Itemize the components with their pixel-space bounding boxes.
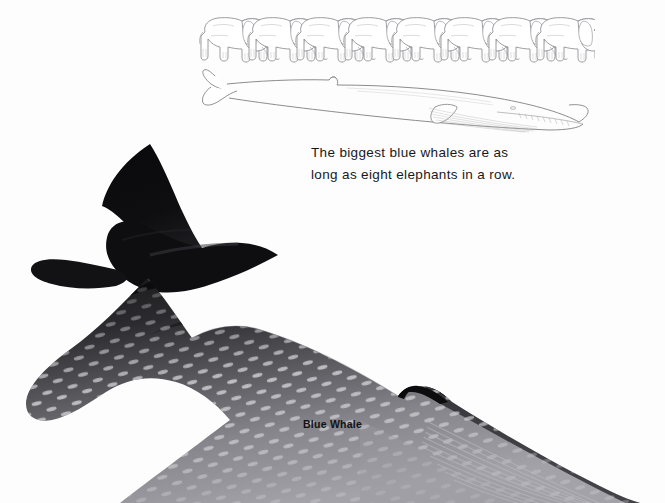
blue-whale-illustration [0,120,665,503]
tail-fluke [31,144,278,293]
size-comparison-figure [195,8,595,133]
species-label: Blue Whale [303,418,362,430]
whale-body [0,120,665,503]
illustration-page: The biggest blue whales are as long as e… [0,0,665,503]
elephant-8 [536,18,595,62]
